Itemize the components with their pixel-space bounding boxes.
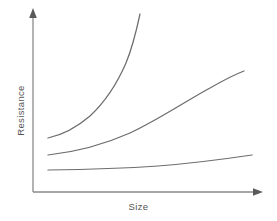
y-axis-label: Resistance (14, 0, 28, 221)
y-axis-arrow-icon (29, 8, 37, 18)
chart-plot-area (0, 0, 277, 221)
series-line-steep-asymptotic-curve (48, 14, 140, 138)
x-axis-arrow-icon (253, 188, 263, 196)
series-line-moderate-exponential-curve (48, 71, 244, 155)
series-line-flat-curve (48, 155, 252, 170)
x-axis-label: Size (0, 201, 277, 212)
chart-figure: Resistance Size (0, 0, 277, 221)
